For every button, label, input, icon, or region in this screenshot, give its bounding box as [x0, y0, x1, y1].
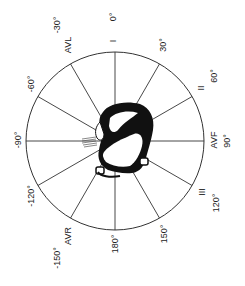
degree-label-neg60: -60°	[27, 76, 36, 93]
degree-label-120: 120°	[212, 194, 221, 213]
hexaxial-diagram: 0° I 30° 60° II AVF 90° III 120° 150° 18…	[0, 0, 245, 286]
degree-label-180: 180°	[111, 235, 120, 254]
degree-label-neg30: -30°	[53, 17, 62, 34]
lead-label-I: I	[109, 40, 118, 43]
lead-label-AVL: AVL	[64, 37, 73, 53]
degree-label-150: 150°	[160, 225, 169, 244]
lead-label-II: II	[197, 85, 206, 90]
degree-label-neg120: -120°	[27, 185, 36, 207]
degree-label-30: 30°	[159, 38, 168, 52]
lead-label-III: III	[198, 188, 207, 196]
degree-label-0: 0°	[109, 13, 118, 22]
lead-label-AVF: AVF	[210, 132, 219, 149]
lead-label-AVR: AVR	[64, 227, 73, 245]
degree-label-90: 90°	[223, 134, 232, 148]
degree-label-60: 60°	[210, 69, 219, 83]
heart-illustration	[82, 102, 153, 176]
degree-label-neg150: -150°	[53, 247, 62, 269]
degree-label-neg90: -90°	[14, 132, 23, 149]
